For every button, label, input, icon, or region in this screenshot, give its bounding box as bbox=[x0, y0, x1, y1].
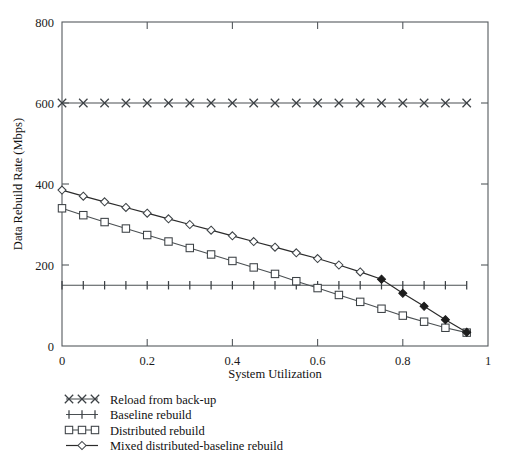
marker-square bbox=[80, 211, 87, 218]
marker-square bbox=[122, 225, 129, 232]
marker-diamond bbox=[250, 238, 258, 246]
series-mixed-distributed-baseline-rebuild bbox=[58, 186, 471, 336]
series-path bbox=[62, 190, 467, 332]
legend-label: Distributed rebuild bbox=[110, 424, 206, 438]
x-axis-title: System Utilization bbox=[228, 367, 322, 381]
y-tick-label: 400 bbox=[35, 178, 54, 192]
axis-ticks bbox=[62, 22, 488, 346]
marker-diamond bbox=[356, 268, 364, 276]
figure-container: 00.20.40.60.81 0200400600800 System Util… bbox=[0, 0, 510, 457]
marker-diamond bbox=[207, 226, 215, 234]
legend-item: Mixed distributed-baseline rebuild bbox=[66, 439, 284, 453]
x-tick-label: 1 bbox=[485, 354, 491, 368]
x-tick-label: 0 bbox=[59, 354, 65, 368]
marker-square bbox=[144, 231, 151, 238]
marker-square bbox=[271, 270, 278, 277]
legend-item: Reload from back-up bbox=[65, 393, 216, 407]
x-tick-label: 0.8 bbox=[395, 354, 411, 368]
series-baseline-rebuild bbox=[62, 281, 467, 289]
marker-diamond bbox=[78, 442, 86, 450]
marker-square bbox=[186, 244, 193, 251]
marker-diamond bbox=[420, 302, 428, 310]
marker-diamond bbox=[335, 261, 343, 269]
marker-square bbox=[250, 264, 257, 271]
marker-square bbox=[442, 324, 449, 331]
y-tick-label: 0 bbox=[48, 340, 54, 354]
marker-diamond bbox=[292, 249, 300, 257]
legend-label: Baseline rebuild bbox=[110, 408, 192, 422]
marker-diamond bbox=[143, 209, 151, 217]
marker-square bbox=[293, 278, 300, 285]
marker-square bbox=[357, 298, 364, 305]
marker-square bbox=[420, 318, 427, 325]
marker-square bbox=[229, 257, 236, 264]
marker-square bbox=[165, 238, 172, 245]
series-distributed-rebuild bbox=[58, 205, 470, 337]
marker-square bbox=[314, 284, 321, 291]
marker-square bbox=[399, 312, 406, 319]
marker-diamond bbox=[314, 255, 322, 263]
marker-diamond bbox=[399, 289, 407, 297]
marker-diamond bbox=[186, 221, 194, 229]
marker-square bbox=[335, 291, 342, 298]
marker-square bbox=[91, 426, 98, 433]
marker-square bbox=[58, 205, 65, 212]
legend-item: Baseline rebuild bbox=[66, 408, 192, 422]
marker-diamond bbox=[271, 243, 279, 251]
marker-diamond bbox=[101, 198, 109, 206]
y-tick-label: 600 bbox=[35, 97, 54, 111]
chart-legend: Reload from back-upBaseline rebuildDistr… bbox=[65, 393, 284, 454]
marker-square bbox=[78, 426, 85, 433]
marker-square bbox=[207, 251, 214, 258]
series-reload-from-back-up bbox=[58, 99, 471, 107]
marker-square bbox=[101, 218, 108, 225]
marker-diamond bbox=[79, 192, 87, 200]
marker-diamond bbox=[165, 215, 173, 223]
legend-label: Mixed distributed-baseline rebuild bbox=[110, 439, 284, 453]
legend-item: Distributed rebuild bbox=[65, 424, 205, 438]
y-axis-title: Data Rebuild Rate (Mbps) bbox=[11, 118, 25, 250]
plot-frame bbox=[62, 22, 488, 346]
x-tick-label: 0.2 bbox=[139, 354, 155, 368]
data-series-group bbox=[58, 99, 471, 337]
marker-diamond bbox=[378, 275, 386, 283]
marker-square bbox=[378, 305, 385, 312]
legend-label: Reload from back-up bbox=[110, 393, 216, 407]
marker-diamond bbox=[441, 316, 449, 324]
x-tick-label: 0.4 bbox=[225, 354, 241, 368]
y-tick-label: 800 bbox=[35, 16, 54, 30]
y-tick-label: 200 bbox=[35, 259, 54, 273]
marker-square bbox=[65, 426, 72, 433]
marker-diamond bbox=[58, 186, 66, 194]
x-tick-labels: 00.20.40.60.81 bbox=[59, 354, 491, 368]
y-tick-labels: 0200400600800 bbox=[35, 16, 54, 354]
marker-diamond bbox=[122, 203, 130, 211]
rebuild-rate-line-chart: 00.20.40.60.81 0200400600800 System Util… bbox=[0, 0, 510, 457]
x-tick-label: 0.6 bbox=[310, 354, 326, 368]
marker-diamond bbox=[228, 232, 236, 240]
